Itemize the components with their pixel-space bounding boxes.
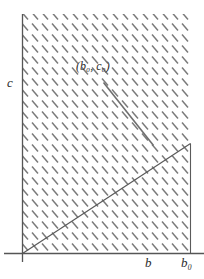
math-figure: c b b₀ (b₀, c₀) bbox=[0, 0, 204, 279]
x-axis-label-b0: b₀ bbox=[181, 256, 192, 269]
plot-canvas bbox=[0, 0, 204, 279]
point-annotation-label: (b₀, c₀) bbox=[76, 60, 110, 72]
x-axis-label: b bbox=[145, 256, 152, 269]
hatched-region bbox=[22, 14, 190, 253]
y-axis-label: c bbox=[7, 76, 13, 89]
